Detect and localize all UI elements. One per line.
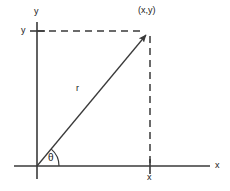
diagram-canvas <box>0 0 230 191</box>
x-axis-label: x <box>215 161 220 170</box>
radius-label: r <box>76 84 79 93</box>
x-value-tick-label: x <box>147 173 152 182</box>
point-coordinates-label: (x,y) <box>138 6 156 15</box>
polar-coordinate-diagram: y x y x (x,y) r θ <box>0 0 230 191</box>
y-value-tick-label: y <box>21 26 26 35</box>
angle-theta-label: θ <box>48 153 54 163</box>
radius-vector-arrow <box>37 35 146 166</box>
y-axis-label: y <box>34 7 39 16</box>
